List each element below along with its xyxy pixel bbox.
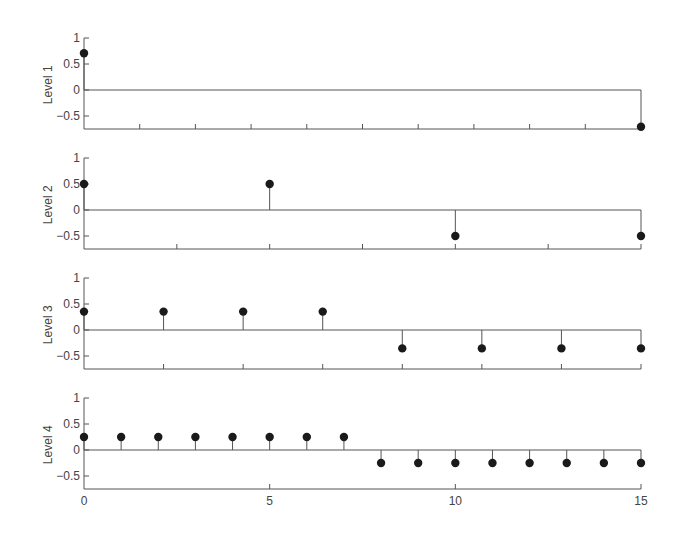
y-tick-label: 0 bbox=[73, 83, 80, 97]
y-tick-label: 0.5 bbox=[63, 57, 80, 71]
y-tick-label: 0 bbox=[73, 323, 80, 337]
stem-marker bbox=[637, 232, 645, 240]
y-tick-label: 1 bbox=[73, 391, 80, 405]
stem-marker bbox=[191, 433, 199, 441]
stem-marker bbox=[159, 307, 167, 315]
stem-marker bbox=[154, 433, 162, 441]
y-tick-label: −0.5 bbox=[56, 109, 80, 123]
x-tick-label: 5 bbox=[266, 494, 273, 508]
stem-marker bbox=[303, 433, 311, 441]
stem-marker bbox=[265, 433, 273, 441]
y-tick-label: −0.5 bbox=[56, 349, 80, 363]
y-tick-label: 0.5 bbox=[63, 177, 80, 191]
stem-plot-figure: 10.50−0.5Level 110.50−0.5Level 210.50−0.… bbox=[0, 0, 681, 534]
stem-marker bbox=[451, 459, 459, 467]
y-axis-label: Level 3 bbox=[41, 305, 55, 344]
y-tick-label: 0 bbox=[73, 203, 80, 217]
stem-marker bbox=[525, 459, 533, 467]
y-axis-label: Level 2 bbox=[41, 185, 55, 224]
panel-level-4: 10.50−0.5Level 4 bbox=[41, 391, 645, 489]
x-tick-label: 0 bbox=[81, 494, 88, 508]
stem-marker bbox=[488, 459, 496, 467]
panel-level-1: 10.50−0.5Level 1 bbox=[41, 31, 645, 131]
stem-marker bbox=[319, 307, 327, 315]
y-tick-label: 0 bbox=[73, 443, 80, 457]
y-axis-label: Level 4 bbox=[41, 425, 55, 464]
y-tick-label: −0.5 bbox=[56, 469, 80, 483]
stem-marker bbox=[265, 180, 273, 188]
y-tick-label: 1 bbox=[73, 271, 80, 285]
y-tick-label: 0.5 bbox=[63, 417, 80, 431]
y-axis-label: Level 1 bbox=[41, 65, 55, 104]
stem-marker bbox=[637, 123, 645, 131]
stem-marker bbox=[228, 433, 236, 441]
stem-marker bbox=[340, 433, 348, 441]
stem-marker bbox=[563, 459, 571, 467]
panel-level-2: 10.50−0.5Level 2 bbox=[41, 151, 645, 249]
stem-marker bbox=[117, 433, 125, 441]
stem-marker bbox=[557, 344, 565, 352]
stem-marker bbox=[398, 344, 406, 352]
stem-marker bbox=[80, 49, 88, 57]
x-tick-label: 10 bbox=[449, 494, 463, 508]
stem-marker bbox=[451, 232, 459, 240]
x-tick-label: 15 bbox=[634, 494, 648, 508]
stem-marker bbox=[600, 459, 608, 467]
stem-marker bbox=[478, 344, 486, 352]
stem-marker bbox=[414, 459, 422, 467]
stem-marker bbox=[377, 459, 385, 467]
stem-marker bbox=[637, 344, 645, 352]
stem-marker bbox=[80, 307, 88, 315]
y-tick-label: −0.5 bbox=[56, 229, 80, 243]
stem-marker bbox=[80, 433, 88, 441]
stem-marker bbox=[80, 180, 88, 188]
y-tick-label: 1 bbox=[73, 31, 80, 45]
panel-level-3: 10.50−0.5Level 3 bbox=[41, 271, 645, 369]
y-tick-label: 0.5 bbox=[63, 297, 80, 311]
stem-marker bbox=[637, 459, 645, 467]
y-tick-label: 1 bbox=[73, 151, 80, 165]
stem-marker bbox=[239, 307, 247, 315]
